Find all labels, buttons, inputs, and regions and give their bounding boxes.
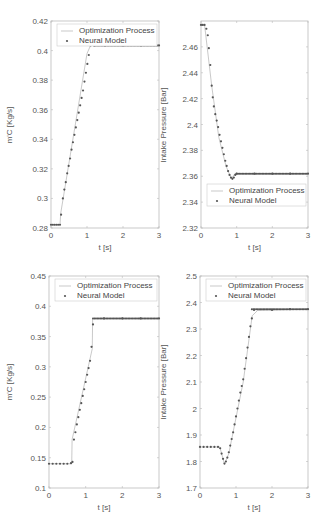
- legend: Optimization ProcessNeural Model: [57, 24, 157, 46]
- y-tick-label: 2: [193, 405, 198, 414]
- x-axis-label: t [s]: [248, 503, 261, 512]
- y-tick-label: 0.36: [32, 106, 48, 115]
- y-tick-label: 2.44: [182, 69, 198, 78]
- neural-model-marker: [63, 463, 65, 465]
- optimization-process-line: [201, 25, 308, 179]
- legend: Optimization ProcessNeural Model: [207, 184, 306, 206]
- neural-model-marker: [225, 460, 227, 462]
- y-axis-label: Intake Pressure [Bar]: [159, 87, 168, 162]
- neural-model-marker: [236, 407, 238, 409]
- y-tick-label: 0.3: [35, 363, 47, 372]
- neural-model-marker: [209, 64, 211, 66]
- y-tick-label: 0.2: [35, 423, 47, 432]
- neural-model-marker: [245, 357, 247, 359]
- neural-model-marker: [205, 28, 207, 30]
- legend-marker-swatch: [216, 200, 218, 202]
- y-tick-label: 0.32: [32, 165, 48, 174]
- y-tick-label: 2.5: [186, 272, 198, 281]
- neural-model-marker: [90, 346, 92, 348]
- neural-model-marker: [89, 360, 91, 362]
- y-tick-label: 0.28: [32, 224, 48, 233]
- optimization-process-line: [200, 309, 308, 464]
- neural-model-marker: [85, 72, 87, 74]
- y-tick-label: 0.1: [35, 484, 47, 493]
- neural-model-marker: [82, 395, 84, 397]
- neural-model-marker: [249, 325, 251, 327]
- neural-model-marker: [75, 126, 77, 128]
- neural-model-marker: [232, 431, 234, 433]
- x-tick-label: 3: [157, 231, 162, 240]
- x-tick-label: 1: [234, 231, 239, 240]
- neural-model-marker: [59, 224, 61, 226]
- neural-model-marker: [70, 149, 72, 151]
- neural-model-marker: [79, 409, 81, 411]
- neural-model-marker: [227, 170, 229, 172]
- y-tick-label: 2.36: [182, 172, 198, 181]
- neural-model-marker: [228, 451, 230, 453]
- y-tick-label: 0.45: [30, 272, 46, 281]
- optimization-process-line: [51, 45, 159, 224]
- x-tick-label: 2: [120, 491, 125, 500]
- neural-model-marker: [203, 24, 205, 26]
- y-tick-label: 0.42: [32, 17, 48, 26]
- neural-model-marker: [74, 431, 76, 433]
- neural-model-marker: [83, 81, 85, 83]
- legend-label-optimization: Optimization Process: [228, 281, 304, 290]
- neural-model-marker: [208, 47, 210, 49]
- neural-model-marker: [207, 34, 209, 36]
- neural-model-marker: [221, 452, 223, 454]
- x-tick-label: 3: [306, 491, 311, 500]
- y-tick-label: 2.32: [182, 224, 198, 233]
- neural-model-marker: [224, 160, 226, 162]
- neural-model-marker: [217, 126, 219, 128]
- neural-model-marker: [73, 438, 75, 440]
- y-tick-label: 2.42: [182, 95, 198, 104]
- legend-marker-swatch: [215, 295, 217, 297]
- y-tick-label: 1.9: [186, 431, 198, 440]
- y-tick-label: 0.25: [30, 393, 46, 402]
- neural-model-marker: [59, 463, 61, 465]
- neural-model-marker: [71, 461, 73, 463]
- neural-model-marker: [210, 446, 212, 448]
- y-tick-label: 2.2: [186, 352, 198, 361]
- neural-model-marker: [213, 446, 215, 448]
- neural-model-marker: [81, 97, 83, 99]
- axes-box: [49, 276, 159, 488]
- neural-model-marker: [251, 317, 253, 319]
- neural-model-marker: [216, 120, 218, 122]
- neural-model-marker: [213, 105, 215, 107]
- x-tick-label: 3: [306, 231, 311, 240]
- neural-model-marker: [226, 456, 228, 458]
- y-tick-label: 2.38: [182, 146, 198, 155]
- neural-model-marker: [199, 446, 201, 448]
- neural-model-marker: [85, 381, 87, 383]
- neural-model-marker: [79, 104, 81, 106]
- neural-model-marker: [82, 89, 84, 91]
- neural-model-marker: [63, 188, 65, 190]
- neural-model-marker: [211, 85, 213, 87]
- optimization-process-line: [49, 318, 159, 463]
- neural-model-marker: [212, 96, 214, 98]
- neural-model-marker: [226, 165, 228, 167]
- neural-model-marker: [88, 54, 90, 56]
- x-tick-label: 1: [83, 491, 88, 500]
- neural-model-marker: [86, 63, 88, 65]
- legend-label-neural: Neural Model: [229, 196, 277, 205]
- x-tick-label: 0: [47, 491, 52, 500]
- figure-canvas: 01230.280.30.320.340.360.380.40.42t [s]m…: [0, 0, 324, 521]
- neural-model-marker: [239, 392, 241, 394]
- y-axis-label: m'C [Kg/s]: [5, 364, 14, 401]
- neural-model-marker: [66, 463, 68, 465]
- neural-model-marker: [76, 119, 78, 121]
- legend-label-optimization: Optimization Process: [229, 186, 305, 195]
- legend: Optimization ProcessNeural Model: [55, 279, 157, 301]
- chart-panel-bottom-right: 01231.71.81.922.12.22.32.42.5t [s]Intake…: [159, 272, 311, 512]
- neural-model-marker: [206, 446, 208, 448]
- x-tick-label: 0: [49, 231, 54, 240]
- x-tick-label: 0: [198, 491, 203, 500]
- x-tick-label: 1: [234, 491, 239, 500]
- neural-model-marker: [203, 446, 205, 448]
- y-tick-label: 1.7: [186, 484, 198, 493]
- neural-model-marker: [233, 423, 235, 425]
- neural-model-marker: [219, 447, 221, 449]
